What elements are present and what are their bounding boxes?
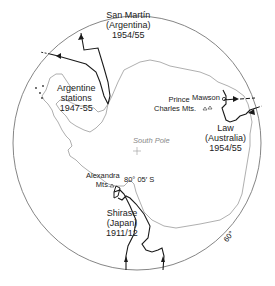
expedition-years: 1911/12 — [106, 228, 138, 238]
expedition-years: 1954/55 — [205, 143, 246, 153]
route-law-dashed — [240, 98, 262, 108]
expedition-name: Argentine — [57, 83, 96, 93]
label-mawson: Mawson — [192, 93, 220, 102]
island — [35, 87, 37, 89]
arrow-icon — [56, 53, 61, 59]
expedition-years: 1947-55 — [57, 103, 96, 113]
expedition-name-line2: stations — [57, 93, 96, 103]
label-latitude-80-05: 80° 05′ S — [124, 175, 154, 184]
expedition-name: Law — [205, 123, 246, 133]
place-name-line2: Mts. — [86, 180, 120, 189]
label-prince-charles-mts: Prince Charles Mts. — [162, 95, 196, 113]
expedition-name: San Martín — [106, 10, 151, 20]
expedition-country: (Japan) — [106, 218, 138, 228]
label-south-pole: South Pole — [133, 136, 170, 146]
mountain-icon — [208, 106, 212, 109]
arrow-icon — [78, 34, 84, 40]
mountain-icon — [203, 107, 207, 110]
label-law: Law (Australia) 1954/55 — [205, 123, 246, 153]
place-name: Alexandra — [86, 171, 120, 180]
label-argentine-stations: Argentine stations 1947-55 — [57, 83, 96, 113]
island — [41, 97, 43, 99]
expedition-country: (Australia) — [205, 133, 246, 143]
label-san-martin: San Martín (Argentina) 1954/55 — [106, 10, 151, 40]
label-shirase: Shirase (Japan) 1911/12 — [106, 208, 138, 238]
route-san-martin-dashed — [40, 52, 50, 54]
expedition-years: 1954/55 — [106, 30, 151, 40]
mawson-station-marker — [222, 97, 225, 100]
island — [42, 85, 44, 87]
south-pole-marker — [133, 147, 141, 155]
island — [39, 92, 41, 94]
label-alexandra-mts: Alexandra Mts. — [86, 171, 120, 189]
arrow-icon — [233, 96, 239, 102]
place-name: Prince — [162, 95, 196, 104]
expedition-name: Shirase — [106, 208, 138, 218]
expedition-country: (Argentina) — [106, 20, 151, 30]
arrow-icon — [124, 256, 128, 262]
place-name-line2: Charles Mts. — [154, 104, 196, 113]
